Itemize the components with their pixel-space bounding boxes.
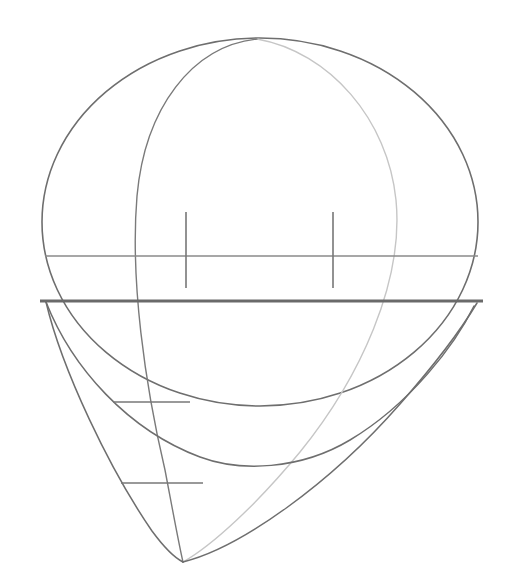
- geometric-figure-svg: [0, 0, 514, 583]
- background-rect: [0, 0, 514, 583]
- figure-canvas: [0, 0, 514, 583]
